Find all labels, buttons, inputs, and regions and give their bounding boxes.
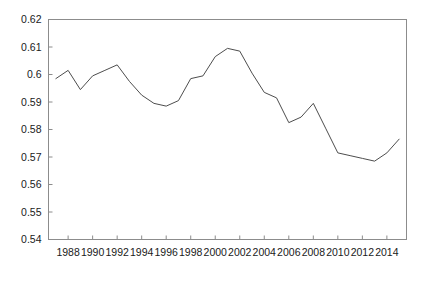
plot-border: [49, 20, 407, 240]
y-tick-label: 0.6: [8, 69, 42, 80]
y-tick-label: 0.55: [8, 207, 42, 218]
y-tick-label: 0.58: [8, 124, 42, 135]
x-axis-ticks: [68, 236, 387, 240]
data-series-group: [56, 48, 399, 161]
y-tick-label: 0.59: [8, 97, 42, 108]
x-tick-label: 2014: [370, 247, 404, 258]
y-tick-label: 0.57: [8, 152, 42, 163]
chart-container: 0.620.610.60.590.580.570.560.550.54 1988…: [0, 0, 426, 282]
y-tick-label: 0.54: [8, 234, 42, 245]
data-series-line: [56, 48, 399, 161]
y-tick-label: 0.56: [8, 179, 42, 190]
y-tick-label: 0.61: [8, 42, 42, 53]
y-tick-label: 0.62: [8, 14, 42, 25]
line-chart-plot: [0, 0, 426, 282]
plot-frame: [49, 20, 407, 240]
y-axis-ticks: [49, 20, 53, 240]
